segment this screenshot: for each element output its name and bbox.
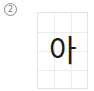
grid-horizontal-line bbox=[38, 70, 87, 71]
hangul-character: 아 bbox=[38, 32, 87, 70]
writing-practice-grid: 아 bbox=[37, 12, 88, 89]
item-number-badge: 2 bbox=[4, 3, 17, 16]
